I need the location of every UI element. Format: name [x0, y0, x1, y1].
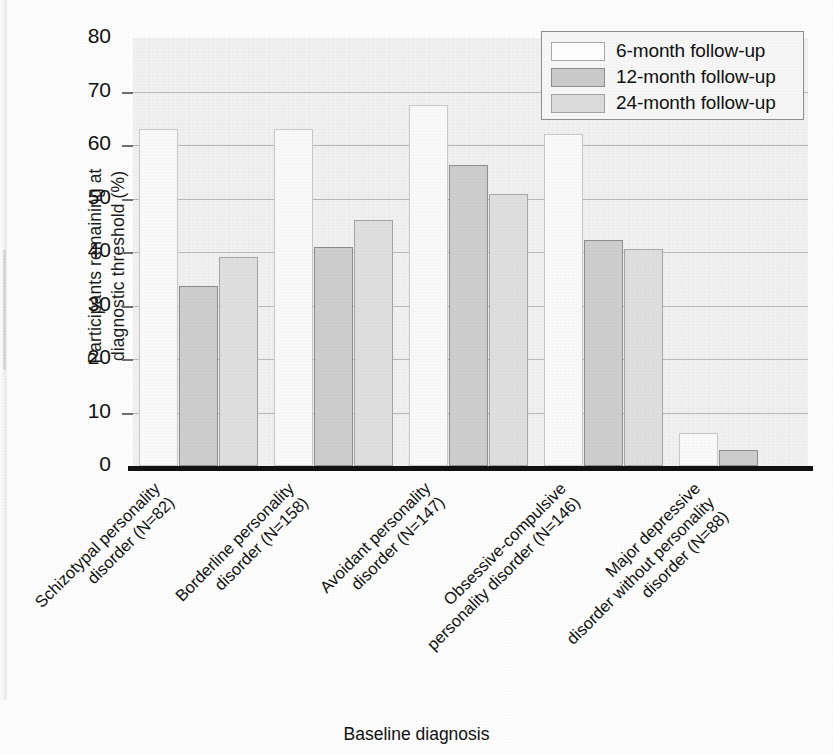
bar-texture	[625, 250, 662, 465]
bar-texture	[410, 106, 447, 465]
y-axis-tick-label: 0	[49, 452, 111, 476]
y-axis-tick	[122, 359, 133, 361]
bar	[544, 134, 583, 466]
legend: 6-month follow-up12-month follow-up24-mo…	[541, 31, 804, 120]
legend-item: 6-month follow-up	[551, 38, 795, 64]
bar	[584, 240, 623, 466]
y-axis-tick-label: 60	[49, 131, 111, 155]
bar	[219, 257, 258, 466]
figure-bar-chart: Participants remaining at diagnostic thr…	[0, 0, 833, 755]
bar-texture	[680, 434, 717, 465]
x-axis-line	[128, 466, 813, 471]
legend-swatch	[551, 68, 605, 87]
scan-page-edge-mark	[3, 250, 6, 370]
legend-item: 24-month follow-up	[551, 90, 795, 116]
y-axis-tick	[122, 199, 133, 201]
legend-swatch	[551, 94, 605, 113]
y-axis-tick	[122, 306, 133, 308]
bar-texture	[545, 135, 582, 465]
y-axis-tick	[122, 92, 133, 94]
legend-swatch	[551, 42, 605, 61]
y-axis-tick-label: 40	[49, 238, 111, 262]
bar	[624, 249, 663, 466]
bar-texture	[355, 221, 392, 465]
x-axis-category-label: Avoidant personalitydisorder (N=147)	[315, 478, 448, 611]
y-axis-tick	[122, 252, 133, 254]
bar-texture	[180, 287, 217, 465]
x-axis-category-label-line: Schizotypal personality	[30, 478, 163, 611]
x-axis-title: Baseline diagnosis	[0, 724, 833, 745]
bar-texture	[585, 241, 622, 465]
legend-label: 12-month follow-up	[616, 66, 776, 88]
x-axis-category-label: Borderline personalitydisorder (N=158)	[171, 478, 312, 619]
y-axis-tick-label: 50	[49, 185, 111, 209]
bar-texture	[275, 130, 312, 465]
y-axis-tick	[122, 145, 133, 147]
bar	[489, 194, 528, 466]
bar	[679, 433, 718, 466]
bar	[409, 105, 448, 466]
y-axis-tick-label: 10	[49, 399, 111, 423]
gridline	[133, 145, 808, 146]
bar	[179, 286, 218, 466]
legend-item: 12-month follow-up	[551, 64, 795, 90]
y-axis-tick-label: 20	[49, 345, 111, 369]
x-axis-category-label-line: disorder (N=82)	[45, 492, 178, 625]
x-axis-category-label: Schizotypal personalitydisorder (N=82)	[30, 478, 178, 626]
bar-texture	[140, 130, 177, 465]
x-axis-category-label-line: disorder (N=158)	[185, 492, 312, 619]
y-axis-tick-label: 30	[49, 292, 111, 316]
bar-texture	[315, 248, 352, 465]
legend-label: 6-month follow-up	[616, 40, 765, 62]
y-axis-tick-label: 80	[49, 24, 111, 48]
legend-label: 24-month follow-up	[616, 92, 776, 114]
bar	[139, 129, 178, 466]
bar	[449, 165, 488, 466]
y-axis-tick-label: 70	[49, 78, 111, 102]
bar-texture	[450, 166, 487, 465]
x-axis-category-label-line: disorder without personality	[562, 492, 718, 648]
bar	[354, 220, 393, 466]
y-axis-tick	[122, 413, 133, 415]
bar	[314, 247, 353, 466]
x-axis-category-label-line: Borderline personality	[171, 478, 298, 605]
bar-texture	[720, 451, 757, 465]
bar	[719, 450, 758, 466]
bar-texture	[490, 195, 527, 465]
bar	[274, 129, 313, 466]
bar-texture	[220, 258, 257, 465]
